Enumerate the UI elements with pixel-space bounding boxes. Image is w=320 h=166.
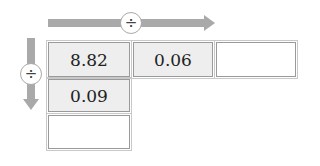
horizontal-operator-symbol: ÷ xyxy=(125,16,138,31)
grid-cell-r1c2: 0.06 xyxy=(133,42,213,77)
cell-value: 0.06 xyxy=(154,50,192,70)
answer-cell-r1c3[interactable] xyxy=(216,42,296,77)
grid-cell-r1c1: 8.82 xyxy=(48,42,130,77)
divide-icon: ÷ xyxy=(120,12,142,34)
grid-cell-r2c1: 0.09 xyxy=(48,79,130,112)
arrow-down-icon xyxy=(23,99,39,110)
arrow-right-icon xyxy=(204,15,215,31)
divide-icon: ÷ xyxy=(20,63,42,85)
cell-value: 0.09 xyxy=(70,86,108,106)
answer-cell-r3c1[interactable] xyxy=(48,115,130,149)
cell-value: 8.82 xyxy=(70,50,108,70)
vertical-operator-symbol: ÷ xyxy=(25,67,38,82)
